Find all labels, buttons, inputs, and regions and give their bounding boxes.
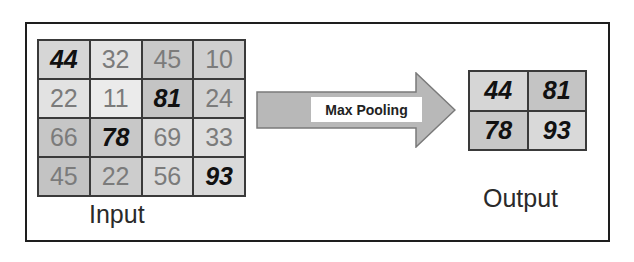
input-cell: 69 — [142, 118, 194, 157]
input-cell: 33 — [193, 118, 245, 157]
input-cell: 45 — [38, 157, 90, 196]
input-cell: 22 — [38, 79, 90, 118]
input-cell: 32 — [90, 40, 142, 79]
input-cell: 22 — [90, 157, 142, 196]
input-cell: 78 — [90, 118, 142, 157]
input-cell: 10 — [193, 40, 245, 79]
input-cell: 81 — [142, 79, 194, 118]
input-cell: 44 — [38, 40, 90, 79]
input-cell: 56 — [142, 157, 194, 196]
output-label: Output — [483, 184, 558, 213]
input-cell: 24 — [193, 79, 245, 118]
operation-label: Max Pooling — [311, 97, 422, 122]
input-cell: 66 — [38, 118, 90, 157]
input-matrix: 44324510221181246678693345225693 — [37, 39, 246, 197]
input-cell: 93 — [193, 157, 245, 196]
input-cell: 45 — [142, 40, 194, 79]
output-cell: 44 — [469, 71, 528, 111]
output-cell: 78 — [469, 111, 528, 151]
input-cell: 11 — [90, 79, 142, 118]
output-cell: 81 — [528, 71, 587, 111]
output-matrix: 44817893 — [468, 70, 587, 151]
input-label: Input — [89, 200, 145, 229]
output-cell: 93 — [528, 111, 587, 151]
